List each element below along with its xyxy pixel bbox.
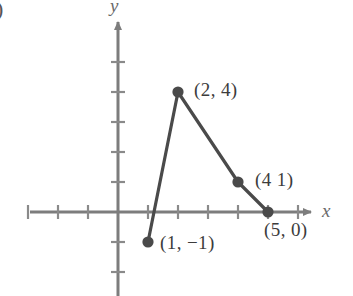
point-label-1-neg1: (1, −1): [160, 232, 215, 254]
y-axis: [111, 22, 125, 296]
point-label-5-0: (5, 0): [264, 219, 308, 241]
data-polyline: [148, 92, 268, 242]
point-label-2-4: (2, 4): [194, 79, 238, 101]
data-point-marker: [172, 86, 183, 97]
data-point-marker: [142, 236, 153, 247]
coordinate-plot-figure: ): [0, 0, 353, 296]
x-axis-label: x: [322, 200, 330, 222]
data-point-marker: [262, 206, 273, 217]
data-point-marker: [232, 176, 243, 187]
y-axis-label: y: [110, 0, 118, 17]
point-label-4-1: (4 1): [255, 169, 293, 191]
